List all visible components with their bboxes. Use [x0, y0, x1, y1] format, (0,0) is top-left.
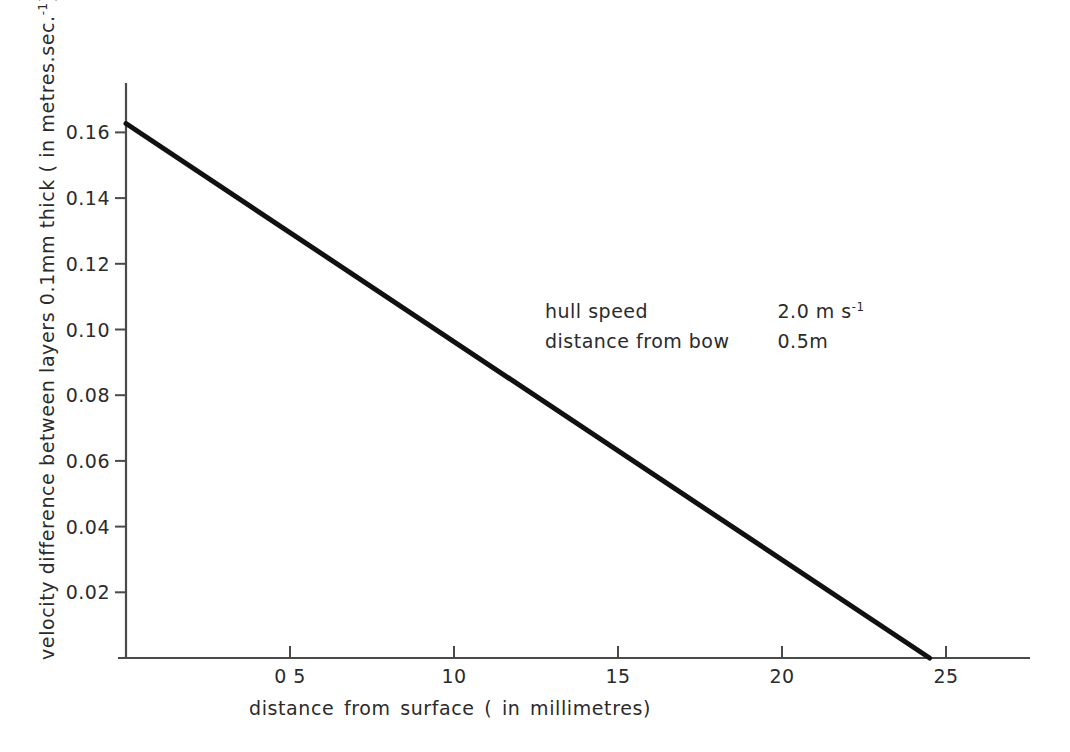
- x-axis-title: distance from surface ( in millimetres): [0, 697, 900, 719]
- annotation-table: hull speed2.0 m s-1distance from bow0.5m: [545, 296, 864, 356]
- plot-area: [0, 0, 1070, 752]
- x-tick-label: 15: [605, 665, 630, 687]
- y-axis-title: velocity difference between layers 0.1mm…: [36, 0, 58, 660]
- axes: [118, 83, 1030, 658]
- y-tick-label: 0.14: [52, 187, 110, 209]
- data-series: [126, 124, 930, 658]
- y-axis-title-superscript: -1: [36, 2, 50, 15]
- annotation-label: distance from bow: [545, 326, 730, 356]
- annotation-row: hull speed2.0 m s-1: [545, 296, 864, 326]
- annotation-row: distance from bow0.5m: [545, 326, 864, 356]
- x-tick-label: 25: [933, 665, 958, 687]
- data-line: [126, 124, 930, 658]
- figure-chart: 0.020.040.060.080.100.120.140.16 0 51015…: [0, 0, 1070, 752]
- y-tick-label: 0.04: [52, 516, 110, 538]
- x-tick-label: 0 5: [274, 665, 306, 687]
- y-axis-title-main: velocity difference between layers 0.1mm…: [36, 15, 58, 660]
- annotation-value-superscript: -1: [852, 300, 865, 314]
- y-tick-label: 0.12: [52, 253, 110, 275]
- chart-annotation-block: hull speed2.0 m s-1distance from bow0.5m: [545, 296, 864, 356]
- y-tick-label: 0.16: [52, 121, 110, 143]
- x-tick-label: 20: [769, 665, 794, 687]
- annotation-value: 0.5m: [730, 326, 865, 356]
- x-tick-label: 10: [441, 665, 466, 687]
- y-tick-label: 0.10: [52, 319, 110, 341]
- annotation-value: 2.0 m s-1: [730, 296, 865, 326]
- y-tick-label: 0.08: [52, 384, 110, 406]
- annotation-label: hull speed: [545, 296, 730, 326]
- y-tick-label: 0.02: [52, 581, 110, 603]
- y-tick-label: 0.06: [52, 450, 110, 472]
- y-axis-title-tail: ): [36, 0, 58, 2]
